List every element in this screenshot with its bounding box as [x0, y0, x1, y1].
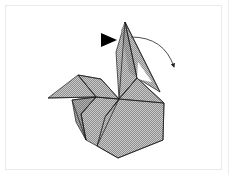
solid-triangle-arrow-icon	[101, 33, 117, 47]
figure-panel: Origami folding step diagram	[0, 0, 234, 175]
origami-diagram	[0, 0, 234, 175]
